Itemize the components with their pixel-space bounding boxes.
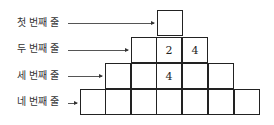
row-label-4: 네 번째 줄 [17,96,59,108]
cell-r3-c4 [182,63,208,89]
cell-r3-c1 [105,63,131,89]
cell-r3-c3: 4 [156,63,182,89]
cell-r1-c1 [157,10,183,36]
cell-r4-c7 [234,89,260,115]
cell-r3-c5 [208,63,234,89]
row-label-2: 두 번째 줄 [17,43,59,55]
arrow-row-1 [68,23,154,24]
cell-r4-c4 [156,89,182,115]
arrow-row-2 [68,50,128,51]
cell-r2-c1 [131,37,157,63]
row-label-3: 세 번째 줄 [17,70,59,82]
cell-r4-c3 [131,89,157,115]
arrow-row-3 [68,76,102,77]
cell-r4-c2 [105,89,131,115]
cell-r4-c5 [182,89,208,115]
cell-r4-c1 [80,89,106,115]
cell-r2-c2: 2 [156,37,182,63]
cell-r4-c6 [208,89,234,115]
cell-r2-c3: 4 [182,37,208,63]
arrow-row-4 [68,103,77,104]
cell-r3-c2 [131,63,157,89]
row-label-1: 첫 번째 줄 [17,17,59,29]
